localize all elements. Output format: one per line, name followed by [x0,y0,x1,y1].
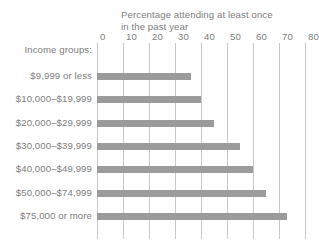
bar [97,166,253,173]
bar [97,213,287,220]
category-label: $10,000–$19,999 [0,93,92,105]
x-tick-label: 0 [97,31,105,43]
gridline-50 [227,43,228,239]
x-tick-label: 50 [227,31,241,43]
gridline-40 [201,43,202,239]
bar [97,190,266,197]
plot-area: 01020304050607080 [97,43,309,239]
category-label: $30,000–$39,999 [0,140,92,152]
gridline-70 [279,43,280,239]
category-axis: $9,999 or less$10,000–$19,999$20,000–$29… [0,0,92,250]
bar [97,73,191,80]
x-tick-label: 40 [201,31,215,43]
x-tick-label: 70 [279,31,293,43]
category-label: $20,000–$29,999 [0,117,92,129]
category-label: $50,000–$74,999 [0,187,92,199]
x-tick-label: 30 [175,31,189,43]
bar [97,96,201,103]
x-tick-label: 20 [149,31,163,43]
gridline-80 [305,43,306,239]
x-tick-label: 80 [305,31,319,43]
bar-chart: Percentage attending at least once in th… [0,0,319,250]
x-tick-label: 10 [123,31,137,43]
category-label: $9,999 or less [0,70,92,82]
bar [97,120,214,127]
category-label: $40,000–$49,999 [0,163,92,175]
gridline-60 [253,43,254,239]
x-tick-label: 60 [253,31,267,43]
category-label: $75,000 or more [0,210,92,222]
bar [97,143,240,150]
chart-title: Percentage attending at least once in th… [121,9,311,32]
